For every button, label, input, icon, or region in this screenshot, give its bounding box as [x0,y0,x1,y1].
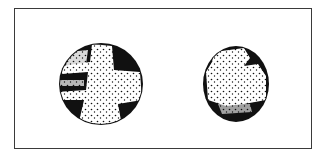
colony-illustration [0,0,331,159]
right-colony [203,46,269,122]
left-colony [58,43,143,126]
